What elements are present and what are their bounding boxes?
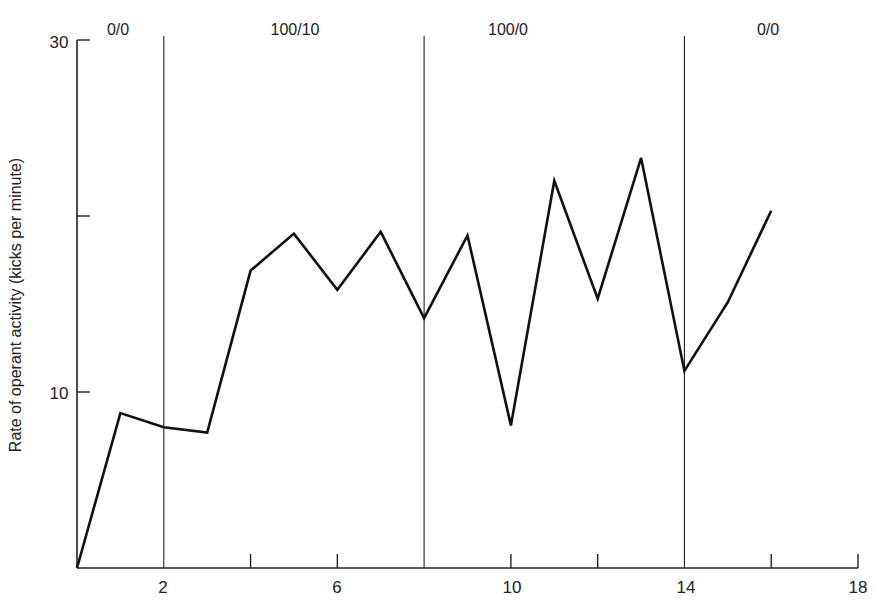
y-axis-label: Rate of operant activity (kicks per minu… [7,158,25,452]
x-tick-label-2: 2 [158,578,167,598]
phase-label-100-0: 100/0 [488,21,528,39]
line-chart [0,0,876,608]
phase-label-baseline-1: 0/0 [107,21,129,39]
x-tick-label-14: 14 [677,578,696,598]
y-tick-label-10: 10 [50,384,69,404]
y-tick-label-30: 30 [50,33,69,53]
x-tick-label-18: 18 [849,578,868,598]
phase-label-100-10: 100/10 [271,21,320,39]
x-tick-label-6: 6 [332,578,341,598]
axes [77,40,858,568]
x-tick-label-10: 10 [503,578,522,598]
phase-label-baseline-2: 0/0 [757,21,779,39]
